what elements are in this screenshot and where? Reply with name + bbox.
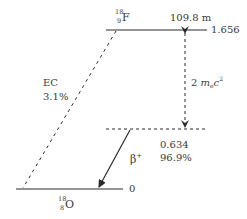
daughter-atomic-number: 8 [60, 205, 64, 212]
decay-scheme-graphics [0, 0, 247, 219]
beta-plus-fraction: 96.9% [160, 152, 192, 164]
beta-plus-transition-arrow [99, 130, 130, 187]
daughter-energy-value: 0 [129, 183, 135, 195]
beta-plus-label: β+ [130, 150, 142, 166]
ec-fraction: 3.1% [43, 91, 68, 103]
half-life-label: 109.8 m [170, 12, 211, 24]
ec-label: EC [43, 77, 58, 89]
beta-plus-endpoint-energy: 0.634 [160, 139, 189, 151]
pair-energy-label: 2 mec2 [191, 73, 223, 92]
ec-transition-line [23, 31, 116, 188]
parent-energy-value: 1.656 [211, 24, 240, 36]
parent-atomic-number: 9 [117, 18, 121, 25]
daughter-symbol: O [65, 199, 74, 211]
daughter-mass-number: 18 [58, 196, 66, 203]
parent-nuclide-label: 18 9 F [115, 12, 130, 26]
parent-mass-number: 18 [115, 9, 123, 16]
daughter-nuclide-label: 18 8 O [58, 199, 74, 213]
